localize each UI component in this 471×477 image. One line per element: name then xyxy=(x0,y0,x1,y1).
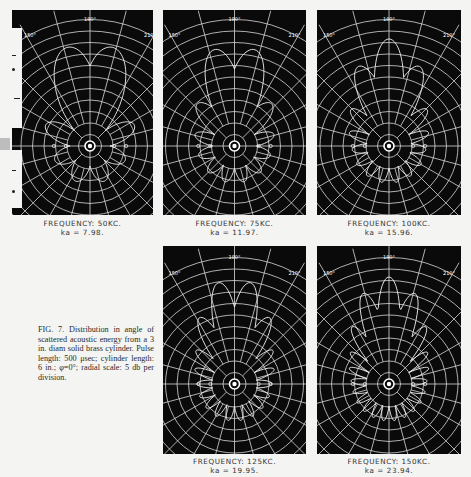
angle-label-150: 150° xyxy=(323,32,336,38)
frequency-label: FREQUENCY: 50KC. xyxy=(12,219,153,228)
angle-label-180: 180° xyxy=(383,16,396,22)
ka-label: ka = 23.94. xyxy=(317,466,461,475)
angle-label-150: 150° xyxy=(168,270,181,276)
polar-chart: 180°150°210° xyxy=(12,10,153,215)
ka-label: ka = 11.97. xyxy=(163,228,306,237)
panel-caption: FREQUENCY: 75KC. ka = 11.97. xyxy=(163,219,306,237)
film-tick xyxy=(14,98,20,99)
ka-label: ka = 7.98. xyxy=(12,228,153,237)
angle-label-210: 210° xyxy=(144,32,153,38)
film-notch-strip xyxy=(0,128,12,138)
polar-chart: 180°150°210° xyxy=(163,10,306,215)
polar-plot-150kc: 180°150°210° xyxy=(317,246,461,454)
film-tick xyxy=(12,170,16,171)
film-tick xyxy=(12,68,15,71)
frequency-label: FREQUENCY: 125KC. xyxy=(163,457,306,466)
polar-plot-75kc: 180°150°210° xyxy=(163,10,306,215)
angle-label-180: 180° xyxy=(84,16,97,22)
panel-caption: FREQUENCY: 125KC. ka = 19.95. xyxy=(163,457,306,475)
angle-label-150: 150° xyxy=(323,270,336,276)
film-marker xyxy=(0,138,10,150)
polar-plot-100kc: 180°150°210° xyxy=(317,10,461,215)
panel-caption: FREQUENCY: 50KC. ka = 7.98. xyxy=(12,219,153,237)
polar-plot-125kc: 180°150°210° xyxy=(163,246,306,454)
angle-label-210: 210° xyxy=(443,32,456,38)
angle-label-210: 210° xyxy=(288,32,301,38)
ka-label: ka = 19.95. xyxy=(163,466,306,475)
panel-caption: FREQUENCY: 100KC. ka = 15.96. xyxy=(317,219,461,237)
frequency-label: FREQUENCY: 100KC. xyxy=(317,219,461,228)
film-tick xyxy=(12,55,16,56)
polar-chart: 180°150°210° xyxy=(317,10,461,215)
film-notch-strip xyxy=(0,28,22,128)
angle-label-150: 150° xyxy=(24,32,37,38)
frequency-label: FREQUENCY: 150KC. xyxy=(317,457,461,466)
polar-plot-50kc: 180°150°210° xyxy=(12,10,153,215)
angle-label-210: 210° xyxy=(443,270,456,276)
figure-caption: FIG. 7. Distribution in angle of scatter… xyxy=(38,325,154,383)
film-tick xyxy=(12,190,15,193)
angle-label-180: 180° xyxy=(228,16,241,22)
film-notch-strip xyxy=(0,150,22,208)
angle-label-210: 210° xyxy=(288,270,301,276)
angle-label-180: 180° xyxy=(383,254,396,260)
polar-chart: 180°150°210° xyxy=(317,246,461,454)
polar-chart: 180°150°210° xyxy=(163,246,306,454)
angle-label-150: 150° xyxy=(168,32,181,38)
ka-label: ka = 15.96. xyxy=(317,228,461,237)
angle-label-180: 180° xyxy=(228,254,241,260)
frequency-label: FREQUENCY: 75KC. xyxy=(163,219,306,228)
panel-caption: FREQUENCY: 150KC. ka = 23.94. xyxy=(317,457,461,475)
